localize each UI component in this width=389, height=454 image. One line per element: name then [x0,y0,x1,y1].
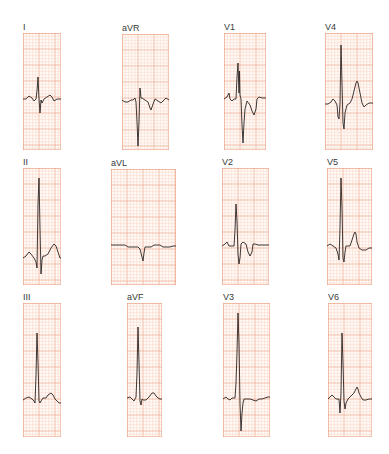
ecg-strip [325,33,373,150]
ecg-strip [122,34,169,150]
lead-label: aVR [122,24,140,33]
lead-label: V1 [224,23,235,32]
lead-label: aVF [127,293,144,302]
lead-label: V6 [328,293,339,302]
ecg-strip [23,303,61,437]
lead-label: V2 [222,158,233,167]
ecg-strip [222,168,269,285]
ecg-strip [223,303,270,437]
ecg-strip [328,303,372,437]
ecg-strip [23,168,61,285]
lead-label: aVL [111,159,127,168]
lead-label: V3 [223,293,234,302]
ecg-strip [127,303,162,437]
lead-label: V5 [327,158,338,167]
ecg-strip [23,33,61,150]
lead-label: I [23,23,26,32]
figure-caption [150,444,270,450]
ecg-strip [327,168,372,285]
ecg-strip [224,33,266,150]
ecg-strip [111,169,176,285]
lead-label: III [23,293,31,302]
lead-label: II [23,158,28,167]
lead-label: V4 [325,23,336,32]
